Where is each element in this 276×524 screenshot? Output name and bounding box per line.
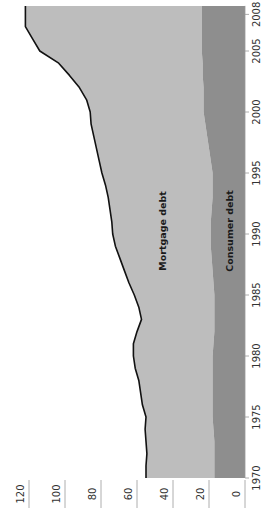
year-tick-label: 1980 [251,343,262,368]
year-tick-label: 2008 [251,2,262,27]
mortgage-debt-area [25,6,214,478]
year-tick-label: 1975 [251,404,262,429]
mortgage-debt-label: Mortgage debt [157,191,168,271]
value-tick-label: 80 [87,488,98,501]
value-tick-label: 20 [195,488,206,501]
value-tick-label: 120 [15,484,26,503]
year-tick-label: 1970 [251,465,262,490]
value-tick-label: 100 [51,484,62,503]
year-axis: 197019751980198519901995200020052008 [245,2,262,491]
stacked-areas [25,6,245,478]
value-tick-label: 40 [159,488,170,501]
value-tick-label: 60 [123,488,134,501]
value-tick-label: 0 [231,491,242,497]
year-tick-label: 1985 [251,282,262,307]
year-tick-label: 1995 [251,160,262,185]
year-tick-label: 2000 [251,99,262,124]
year-tick-label: 2005 [251,38,262,63]
debt-area-chart: 197019751980198519901995200020052008 020… [0,0,276,524]
year-tick-label: 1990 [251,221,262,246]
value-axis: 020406080100120 [15,480,245,508]
consumer-debt-label: Consumer debt [224,190,235,272]
